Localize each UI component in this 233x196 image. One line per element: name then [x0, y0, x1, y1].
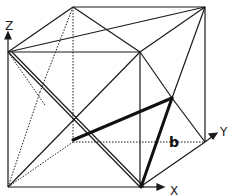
cube-diagram: Z X Y b	[0, 0, 233, 196]
z-axis-arrow-icon	[5, 32, 11, 39]
internal-edges	[8, 7, 205, 187]
x-axis-label: X	[170, 184, 178, 196]
axes	[5, 32, 217, 190]
y-axis-label: Y	[219, 125, 228, 139]
hidden-edges	[8, 7, 205, 187]
vector-b-label: b	[169, 134, 179, 150]
x-axis-arrow-icon	[157, 184, 164, 190]
z-axis-label: Z	[5, 19, 13, 33]
cube-edges	[8, 7, 205, 187]
